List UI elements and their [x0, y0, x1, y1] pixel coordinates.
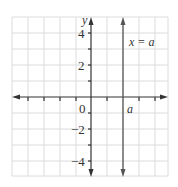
y-tick-label-neg4: −4	[71, 154, 85, 169]
y-tick-label-4: 4	[78, 26, 85, 41]
coordinate-plane: y 4 2 0 −2 −4 a x = a	[0, 0, 178, 187]
a-tick-label: a	[127, 102, 133, 116]
y-axis-label: y	[81, 13, 88, 27]
line-label: x = a	[128, 35, 154, 49]
x-axis	[16, 97, 164, 101]
line-up-arrow-icon	[121, 17, 126, 25]
y-tick-label-2: 2	[78, 58, 85, 73]
y-axis-up-arrow-icon	[89, 17, 94, 25]
x-axis-left-arrow-icon	[12, 95, 20, 100]
origin-label: 0	[79, 101, 86, 116]
x-axis-right-arrow-icon	[160, 95, 168, 100]
y-tick-label-neg2: −2	[71, 122, 85, 137]
